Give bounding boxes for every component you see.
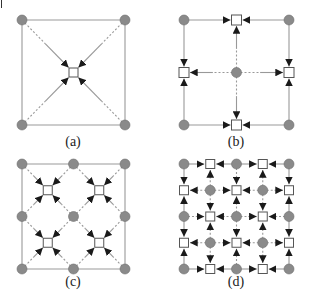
circle-node [17,212,27,222]
circle-node [284,159,294,169]
circle-node [284,212,294,222]
circle-node [179,15,189,25]
panel-d-label: (d) [228,274,244,290]
diag-arrow [45,44,68,68]
diag-arrow [78,44,101,68]
circle-node [205,238,215,248]
diag-arrow [53,176,62,185]
circle-node [179,264,189,274]
circle-node [179,120,189,130]
circle-node [284,15,294,25]
circle-node [205,185,215,195]
diag-arrow [34,228,43,237]
circle-node [179,159,189,169]
square-node [43,238,52,247]
circle-node [17,264,27,274]
square-node [69,68,78,77]
circle-node [232,264,242,274]
square-node [206,265,215,274]
square-node [285,186,294,195]
square-node [180,238,189,247]
circle-node [17,159,27,169]
circle-node [120,15,130,25]
square-node [95,238,104,247]
diag-arrow [104,195,113,204]
circle-node [284,264,294,274]
square-node [258,265,267,274]
circle-node [17,120,27,130]
diag-arrow [34,195,43,204]
circle-node [120,264,130,274]
square-node [232,186,241,195]
diag-arrow [34,248,43,257]
circle-node [284,120,294,130]
circle-node [69,264,79,274]
circle-node [258,238,268,248]
square-node [232,15,242,25]
diag-arrow [53,195,62,204]
diag-arrow [53,248,62,257]
square-node [206,160,215,169]
square-node [258,212,267,221]
square-node [284,68,294,78]
circle-node [69,212,79,222]
diag-arrow [34,176,43,185]
circle-node [17,15,27,25]
diag-arrow [53,228,62,237]
square-node [206,212,215,221]
diagram-canvas [0,0,309,304]
circle-node [69,159,79,169]
square-node [232,238,241,247]
panel-c-label: (c) [65,274,81,290]
diag-arrow [104,228,113,237]
square-node [180,186,189,195]
panel-a-label: (a) [65,134,81,150]
diag-arrow [78,77,101,101]
square-node [258,160,267,169]
circle-node [258,185,268,195]
diag-arrow [85,176,94,185]
square-node [179,68,189,78]
diag-arrow [85,195,94,204]
circle-node [232,212,242,222]
panel-b-label: (b) [228,134,244,150]
circle-node [120,159,130,169]
circle-node [179,212,189,222]
circle-node [120,120,130,130]
diag-arrow [85,248,94,257]
square-node [285,238,294,247]
diag-arrow [45,77,68,101]
circle-node [232,68,242,78]
diag-arrow [85,228,94,237]
circle-node [232,159,242,169]
diag-arrow [104,248,113,257]
square-node [43,186,52,195]
diag-arrow [104,176,113,185]
square-node [232,120,242,130]
circle-node [120,212,130,222]
square-node [95,186,104,195]
